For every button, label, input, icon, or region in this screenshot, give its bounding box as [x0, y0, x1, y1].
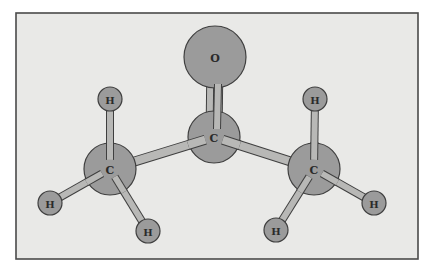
atom-h-h1a: H [98, 87, 122, 111]
acetone-molecule-diagram: HHHHHHOCCC [0, 0, 437, 271]
atom-label: O [210, 52, 220, 65]
atom-label: H [45, 199, 54, 210]
atom-label: H [105, 95, 114, 106]
atom-label: C [210, 132, 219, 145]
atom-label: C [106, 164, 115, 177]
atom-o-o1: O [184, 26, 246, 88]
atom-label: H [369, 199, 378, 210]
atom-label: H [271, 226, 280, 237]
bond-stub [223, 140, 240, 145]
atom-h-h1b: H [38, 191, 62, 215]
atom-h-h1c: H [136, 219, 160, 243]
bond-stub [188, 140, 205, 145]
double-bond-overlay [217, 84, 218, 129]
atom-h-h3a: H [303, 87, 327, 111]
atom-label: H [143, 227, 152, 238]
atom-label: H [310, 95, 319, 106]
atom-label: C [310, 164, 319, 177]
atom-h-h3c: H [264, 218, 288, 242]
atom-h-h3b: H [362, 191, 386, 215]
